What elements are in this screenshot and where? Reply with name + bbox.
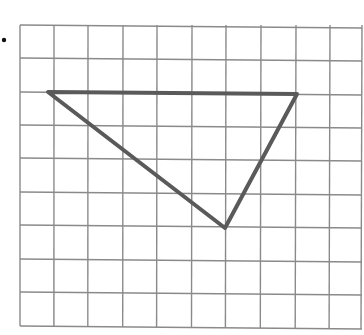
grid-line-horizontal xyxy=(20,125,362,128)
grid-line-vertical xyxy=(225,25,226,328)
grid-line-vertical xyxy=(295,25,296,328)
grid-line-horizontal xyxy=(20,58,362,61)
grid-diagram xyxy=(0,0,364,335)
grid-line-horizontal xyxy=(20,192,362,195)
grid-line-vertical xyxy=(329,25,330,329)
grid-line-vertical xyxy=(192,25,193,328)
grid-line-vertical xyxy=(361,25,362,329)
grid-line-vertical xyxy=(260,25,261,328)
grid-line-horizontal xyxy=(20,25,362,28)
bullet-dot-icon xyxy=(2,38,6,42)
grid-line-horizontal xyxy=(20,158,362,161)
square-grid xyxy=(20,25,362,329)
